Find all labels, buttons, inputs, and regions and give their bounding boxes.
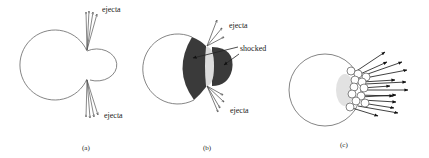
panel-c: (c) — [289, 52, 408, 149]
panel-caption: (b) — [203, 144, 212, 152]
large-body — [20, 30, 87, 100]
shocked-label: shocked — [240, 44, 266, 53]
ejecta-arrows-top — [86, 11, 97, 50]
panel-b: ejecta shocked ejecta (b) — [143, 20, 266, 152]
ejecta-label-top: ejecta — [229, 21, 248, 30]
ejecta-arrows-bottom — [207, 86, 224, 112]
ejecta-label-top: ejecta — [102, 5, 121, 14]
small-body — [87, 49, 117, 81]
panel-a: ejecta ejecta (a) — [20, 5, 123, 152]
ejecta-label-bottom: ejecta — [230, 106, 249, 115]
panel-caption: (c) — [340, 141, 348, 149]
ejecta-arrows-bottom — [86, 80, 98, 118]
ejecta-label-bottom: ejecta — [104, 111, 123, 120]
ejecta-arrows-top — [207, 20, 224, 46]
panel-caption: (a) — [82, 144, 90, 152]
collision-diagram: ejecta ejecta (a) ejecta shocked ejecta … — [0, 0, 429, 158]
shocked-region — [182, 37, 206, 100]
